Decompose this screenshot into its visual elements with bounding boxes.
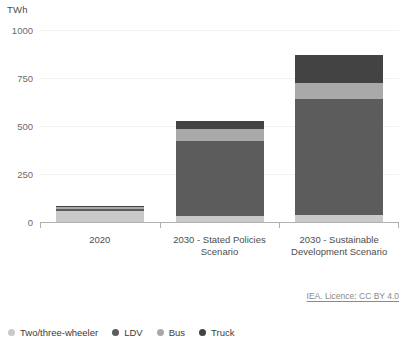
x-axis-category-label: 2030 - Stated Policies Scenario	[160, 234, 280, 258]
bar-segment[interactable]	[176, 121, 264, 129]
legend-label: LDV	[124, 327, 142, 338]
y-axis-tick-label: 1000	[12, 25, 33, 36]
bar-2[interactable]	[176, 30, 264, 222]
legend-swatch-icon	[199, 329, 206, 336]
bar-segment[interactable]	[176, 141, 264, 216]
legend-item-0[interactable]: Two/three-wheeler	[8, 327, 98, 338]
x-axis-tick	[40, 222, 41, 228]
bar-segment[interactable]	[56, 206, 144, 207]
bar-segment[interactable]	[56, 207, 144, 209]
legend-label: Bus	[169, 327, 185, 338]
legend-item-3[interactable]: Truck	[199, 327, 234, 338]
bar-segment[interactable]	[295, 83, 383, 99]
attribution-text: IEA. Licence: CC BY 4.0	[307, 291, 399, 301]
x-axis-line	[40, 222, 399, 223]
chart-container: TWh 02505007501000 IEA. Licence: CC BY 4…	[0, 0, 409, 348]
y-axis-tick-label: 500	[17, 121, 33, 132]
legend-item-2[interactable]: Bus	[157, 327, 185, 338]
x-axis-tick	[160, 222, 161, 228]
bar-segment[interactable]	[56, 209, 144, 212]
chart-legend: Two/three-wheelerLDVBusTruck	[8, 327, 234, 338]
legend-label: Truck	[211, 327, 234, 338]
bar-segment[interactable]	[176, 129, 264, 141]
legend-swatch-icon	[112, 329, 119, 336]
bar-3[interactable]	[295, 30, 383, 222]
legend-label: Two/three-wheeler	[20, 327, 98, 338]
y-axis-tick-label: 0	[28, 217, 33, 228]
legend-swatch-icon	[157, 329, 164, 336]
x-axis-tick	[398, 222, 399, 228]
bar-segment[interactable]	[56, 211, 144, 222]
x-axis-tick	[279, 222, 280, 228]
bar-1[interactable]	[56, 30, 144, 222]
bar-segment[interactable]	[295, 55, 383, 83]
plot-area	[40, 30, 399, 222]
x-axis-category-label: 2020	[40, 234, 160, 246]
y-axis-tick-labels: 02505007501000	[0, 30, 38, 222]
y-axis-tick-label: 750	[17, 73, 33, 84]
bar-segment[interactable]	[295, 215, 383, 222]
legend-item-1[interactable]: LDV	[112, 327, 142, 338]
bar-segment[interactable]	[295, 99, 383, 215]
x-axis-category-label: 2030 - Sustainable Development Scenario	[279, 234, 399, 258]
y-axis-unit-label: TWh	[7, 4, 28, 15]
legend-swatch-icon	[8, 329, 15, 336]
y-axis-tick-label: 250	[17, 169, 33, 180]
